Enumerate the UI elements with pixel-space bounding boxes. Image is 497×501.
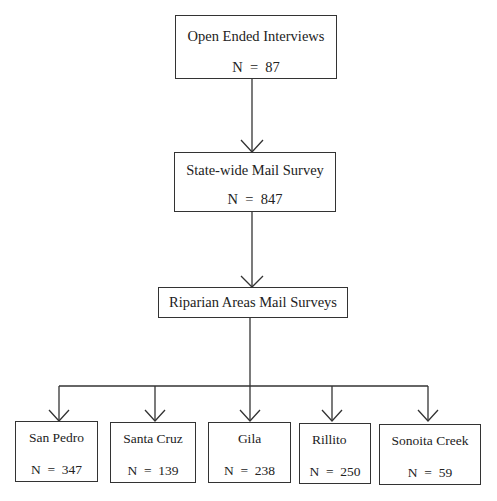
node-label: Rillito [300, 432, 370, 448]
node-count: N = 87 [176, 59, 336, 76]
node-sonoita-creek: Sonoita Creek N = 59 [379, 424, 481, 485]
node-san-pedro: San Pedro N = 347 [15, 421, 98, 482]
node-count: N = 847 [175, 191, 335, 208]
node-label: Santa Cruz [111, 431, 195, 447]
node-gila: Gila N = 238 [208, 422, 291, 483]
node-santa-cruz: Santa Cruz N = 139 [110, 422, 196, 483]
node-count: N = 347 [16, 462, 97, 478]
node-label: State-wide Mail Survey [175, 162, 335, 179]
node-count: N = 139 [111, 463, 195, 479]
node-label: Riparian Areas Mail Surveys [159, 294, 347, 311]
node-label: San Pedro [16, 430, 97, 446]
node-label: Open Ended Interviews [176, 28, 336, 45]
node-rillito: Rillito N = 250 [299, 423, 371, 484]
node-riparian-areas-mail-surveys: Riparian Areas Mail Surveys [158, 287, 348, 318]
node-count: N = 59 [380, 465, 480, 481]
node-count: N = 238 [209, 463, 290, 479]
node-open-ended-interviews: Open Ended Interviews N = 87 [175, 15, 337, 79]
node-state-wide-mail-survey: State-wide Mail Survey N = 847 [174, 152, 336, 212]
node-count: N = 250 [300, 464, 370, 480]
node-label: Gila [209, 431, 290, 447]
node-label: Sonoita Creek [380, 433, 480, 449]
